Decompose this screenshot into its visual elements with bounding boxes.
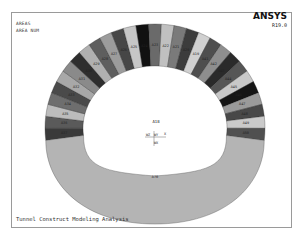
segment-label: A50 — [243, 131, 249, 135]
segment-label: A46 — [235, 93, 241, 97]
segment-label: A47 — [239, 102, 245, 106]
invert-label: A70 — [152, 175, 158, 179]
segment-label: A30 — [86, 69, 92, 73]
area-label-center: A18 — [152, 119, 160, 124]
segment-label: A44 — [225, 77, 231, 81]
segment-label: A23 — [152, 43, 158, 47]
tunnel-plot[interactable]: A37A36A35A34A33A32A31A30A29A28A27A26A25A… — [0, 0, 303, 238]
segment-label: A19 — [193, 52, 199, 56]
segment-label: A29 — [93, 62, 99, 66]
segment-label: A37 — [61, 131, 67, 135]
segment-label: A31 — [79, 77, 85, 81]
plot-title: Tunnel Construct Modeling Analysis — [16, 216, 129, 222]
segment-label: A26 — [121, 48, 127, 52]
segment-label: A28 — [102, 57, 108, 61]
segment-label: A41 — [202, 57, 208, 61]
svg-text:X: X — [164, 132, 167, 136]
segment-label: A36 — [61, 121, 67, 125]
svg-text:WX: WX — [154, 141, 159, 145]
segment-label: A22 — [162, 44, 168, 48]
svg-text:WY: WY — [154, 133, 159, 137]
segment-label: A25 — [131, 45, 137, 49]
segment-label: A32 — [73, 85, 79, 89]
segment-label: A33 — [68, 93, 74, 97]
invert-segment[interactable] — [46, 135, 264, 224]
segment-label: A34 — [65, 102, 71, 106]
segment-label: A49 — [243, 121, 249, 125]
segment-label: A43 — [218, 69, 224, 73]
segment-label: A21 — [173, 45, 179, 49]
segment-label: A35 — [62, 112, 68, 116]
segment-label: A48 — [242, 112, 248, 116]
segment-label: A20 — [183, 48, 189, 52]
segment-label: A45 — [231, 85, 237, 89]
segment-label: A27 — [111, 52, 117, 56]
segment-label: A24 — [141, 44, 147, 48]
svg-text:WZ: WZ — [146, 133, 150, 137]
axis-triad-icon: WZWYXWX — [145, 131, 167, 146]
segment-label: A42 — [210, 62, 216, 66]
